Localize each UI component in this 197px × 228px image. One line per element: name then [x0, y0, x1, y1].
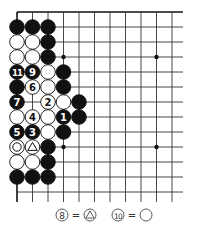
stone-body — [10, 170, 25, 185]
white-stone — [56, 95, 71, 110]
white-stone — [25, 50, 40, 65]
white-stone — [25, 140, 40, 155]
stone-body — [10, 155, 25, 170]
stone-body — [56, 80, 71, 95]
white-stone — [25, 155, 40, 170]
caption-equals: = — [128, 210, 136, 221]
stone-body — [10, 35, 25, 50]
stones: 1196724153 — [10, 20, 87, 185]
caption-entry: 10= — [112, 209, 152, 221]
white-stone — [10, 35, 25, 50]
stone-body — [25, 170, 40, 185]
black-stone — [72, 110, 87, 125]
hoshi-point — [154, 145, 158, 149]
black-stone — [72, 95, 87, 110]
stone-body — [41, 170, 56, 185]
black-stone — [56, 125, 71, 140]
stone-body — [56, 125, 71, 140]
caption-stone-icon — [140, 209, 152, 221]
stone-body — [10, 20, 25, 35]
stone-body — [41, 50, 56, 65]
black-stone — [41, 20, 56, 35]
white-stone — [10, 155, 25, 170]
stone-body — [25, 155, 40, 170]
white-stone — [10, 140, 25, 155]
move-number-label: 6 — [29, 82, 36, 93]
stone-body — [41, 155, 56, 170]
move-number-label: 2 — [45, 97, 52, 108]
stone-body — [41, 125, 56, 140]
stone-body — [10, 50, 25, 65]
black-stone: 11 — [10, 65, 25, 80]
move-number-label: 3 — [29, 127, 36, 138]
stone-body — [56, 65, 71, 80]
black-stone: 9 — [25, 65, 40, 80]
black-stone — [41, 50, 56, 65]
stone-body — [25, 50, 40, 65]
black-stone — [41, 155, 56, 170]
move-number-label: 4 — [29, 112, 36, 123]
stone-body — [72, 95, 87, 110]
black-stone — [41, 170, 56, 185]
black-stone: 7 — [10, 95, 25, 110]
stone-body — [41, 80, 56, 95]
stone-body — [72, 110, 87, 125]
stone-body — [41, 65, 56, 80]
black-stone — [41, 35, 56, 50]
stone-body — [25, 20, 40, 35]
move-caption: 8=10= — [56, 209, 152, 221]
white-stone — [25, 35, 40, 50]
move-number-label: 9 — [29, 67, 36, 78]
white-stone — [41, 125, 56, 140]
white-stone — [41, 110, 56, 125]
stone-body — [41, 35, 56, 50]
black-stone: 3 — [25, 125, 40, 140]
black-stone — [56, 65, 71, 80]
stone-body — [10, 80, 25, 95]
stone-body — [10, 140, 25, 155]
white-stone — [41, 65, 56, 80]
white-stone: 4 — [25, 110, 40, 125]
black-stone — [10, 170, 25, 185]
stone-body — [41, 110, 56, 125]
move-number-label: 7 — [14, 97, 21, 108]
move-number-label: 5 — [14, 127, 21, 138]
move-number-label: 1 — [60, 112, 67, 123]
black-stone — [25, 20, 40, 35]
stone-body — [56, 95, 71, 110]
caption-move-number: 8 — [59, 211, 65, 221]
black-stone — [10, 20, 25, 35]
white-stone: 2 — [41, 95, 56, 110]
caption-entry: 8= — [56, 209, 96, 221]
white-stone — [10, 110, 25, 125]
white-stone — [10, 50, 25, 65]
white-stone — [41, 80, 56, 95]
move-number-label: 11 — [12, 68, 23, 78]
stone-body — [10, 110, 25, 125]
hoshi-point — [61, 55, 65, 59]
stone-body — [41, 20, 56, 35]
black-stone: 5 — [10, 125, 25, 140]
caption-move-number: 10 — [114, 212, 123, 221]
caption-equals: = — [72, 210, 80, 221]
black-stone: 1 — [56, 110, 71, 125]
black-stone — [41, 140, 56, 155]
hoshi-point — [154, 55, 158, 59]
go-board: 1196724153 8=10= — [0, 0, 197, 228]
black-stone — [10, 80, 25, 95]
black-stone — [56, 80, 71, 95]
stone-body — [41, 140, 56, 155]
hoshi-point — [61, 145, 65, 149]
white-stone: 6 — [25, 80, 40, 95]
black-stone — [25, 170, 40, 185]
stone-body — [25, 35, 40, 50]
